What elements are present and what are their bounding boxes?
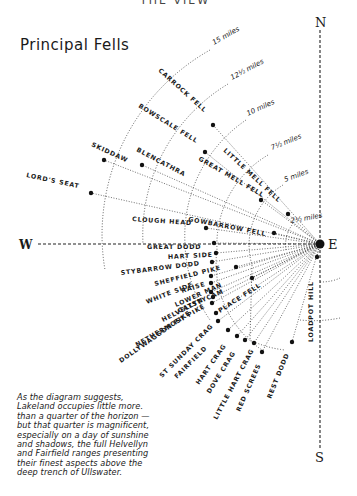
- fell-dot-little-mell-fell: [286, 212, 290, 216]
- fell-dot-carrock-fell: [211, 123, 215, 127]
- distance-label: 7½ miles: [270, 132, 303, 152]
- principal-fells-diagram: THE VIEW Principal Fells LORD'S SEATSKID…: [0, 0, 357, 496]
- fell-label-carrock-fell: CARROCK FELL: [157, 67, 208, 114]
- fell-dot-hart-crag: [243, 338, 247, 342]
- fell-label-lord-s-seat: LORD'S SEAT: [26, 171, 80, 189]
- fell-dot-little-hart-crag: [260, 350, 264, 354]
- fell-label-clough-head: CLOUGH HEAD: [132, 215, 192, 226]
- fell-dot-great-mell-fell: [259, 198, 263, 202]
- fell-dot-dollywaggon-pike: [216, 319, 220, 323]
- fell-dot-fairfield: [235, 334, 239, 338]
- viewpoint-marker: [316, 240, 325, 249]
- sight-line-skiddaw: [104, 160, 320, 244]
- fell-dot-place-fell: [250, 276, 254, 280]
- fell-dot-nethermost-pike: [214, 311, 218, 315]
- distance-label: 2½ miles: [290, 211, 323, 225]
- fell-label-bowscale-fell: BOWSCALE FELL: [137, 102, 199, 144]
- fell-dot-clough-head: [204, 226, 208, 230]
- fell-label-gowbarrow-fell: GOWBARROW FELL: [188, 215, 267, 237]
- compass-west-label: W: [18, 238, 33, 252]
- fell-dot-sheffield-pike: [234, 265, 238, 269]
- fell-dot-stybarrow-dodd: [210, 260, 214, 264]
- fell-dot-hart-side: [214, 251, 218, 255]
- compass-north-label: N: [315, 15, 326, 30]
- fell-dot-st-sunday-crag: [226, 328, 230, 332]
- fell-label-rest-dodd: REST DODD: [265, 352, 290, 400]
- fell-dot-rest-dodd: [290, 340, 294, 344]
- distance-label: 12½ miles: [229, 57, 265, 81]
- fell-label-great-dodd: GREAT DODD: [147, 243, 201, 250]
- ring-outer-tick-1: [320, 278, 340, 282]
- fell-dot-lord-s-seat: [89, 191, 93, 195]
- sight-line-dollywaggon-pike: [218, 244, 320, 321]
- fell-label-hart-side: HART SIDE: [168, 251, 213, 260]
- fell-label-loadpot-hill: LOADPOT HILL: [307, 281, 314, 342]
- fell-dot-helvellyn: [210, 301, 214, 305]
- fell-label-place-fell: PLACE FELL: [217, 281, 262, 314]
- compass-south-label: S: [315, 450, 324, 465]
- fell-dot-blencathra: [140, 163, 144, 167]
- fell-label-skiddaw: SKIDDAW: [91, 141, 130, 164]
- compass-axes: [38, 30, 320, 448]
- distance-label: 5 miles: [283, 168, 310, 184]
- fell-dot-raise: [209, 274, 213, 278]
- fell-dot-loadpot-hill: [315, 255, 319, 259]
- fell-dot-great-dodd: [212, 241, 216, 245]
- fell-dot-skiddaw: [102, 158, 106, 162]
- fell-dot-bowscale-fell: [203, 150, 207, 154]
- fell-dot-gowbarrow-fell: [272, 231, 276, 235]
- distance-labels: 2½ miles5 miles7½ miles10 miles12½ miles…: [211, 25, 323, 225]
- compass-east-label: E: [328, 237, 338, 252]
- distance-label: 15 miles: [211, 25, 241, 47]
- diagram-caption: As the diagram suggests, Lakeland occupi…: [17, 393, 197, 478]
- caption-line: deep trench of Ullswater.: [17, 468, 197, 477]
- sight-line-white-side: [211, 244, 320, 283]
- fell-label-blencathra: BLENCATHRA: [136, 146, 188, 178]
- fell-dot-dove-crag: [252, 341, 256, 345]
- distance-label: 10 miles: [245, 98, 276, 118]
